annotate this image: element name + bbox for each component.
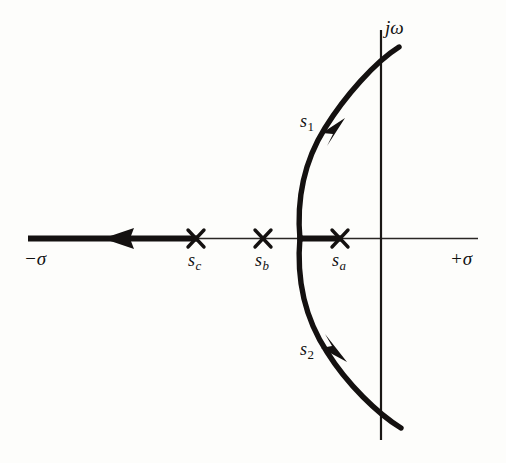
branch-label-s1-subscript: 1 — [307, 119, 314, 134]
pole-label-sb-subscript: b — [262, 258, 269, 273]
pole-label-sa-base: s — [332, 250, 339, 270]
pole-label-sc: sc — [188, 251, 201, 273]
pole-label-sc-base: s — [188, 250, 195, 270]
branch-label-s2-subscript: 2 — [307, 347, 314, 362]
branch-label-s2-base: s — [300, 339, 307, 359]
branch-label-s2: s2 — [300, 340, 314, 362]
real-axis-locus-arrow — [103, 228, 134, 249]
locus-branch-lower — [299, 237, 401, 428]
negative-sigma-axis-label: −σ — [24, 249, 46, 268]
locus-branch-upper — [299, 47, 399, 240]
pole-label-sa: sa — [332, 251, 346, 273]
pole-label-sc-subscript: c — [195, 258, 201, 273]
branch-label-s1: s1 — [300, 112, 314, 134]
root-locus-diagram: jω −σ +σ sc sb sa s1 s2 — [0, 0, 506, 463]
locus-drawing — [0, 0, 506, 463]
locus-branch-upper-arrow — [322, 118, 345, 146]
positive-sigma-axis-label: +σ — [450, 249, 472, 268]
imaginary-axis-label: jω — [385, 18, 404, 37]
pole-label-sb: sb — [255, 251, 269, 273]
pole-label-sa-subscript: a — [339, 258, 346, 273]
branch-label-s1-base: s — [300, 111, 307, 131]
pole-label-sb-base: s — [255, 250, 262, 270]
